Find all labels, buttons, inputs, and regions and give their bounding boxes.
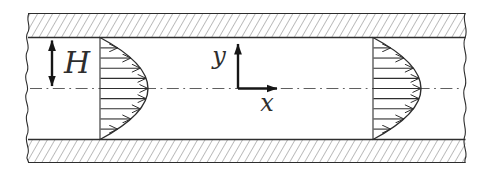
top-wall [28,14,466,38]
bottom-wall-hatching [28,140,466,163]
velocity-profile-right [373,38,421,140]
velocity-profile-left [100,38,148,140]
x-axis-label: x [260,89,274,117]
channel-flow-diagram: H y x [0,0,492,171]
h-label: H [63,45,91,80]
h-dimension: H [52,41,91,87]
top-wall-hatching [28,14,466,38]
y-axis-label: y [211,42,226,70]
bottom-wall [28,140,466,163]
coordinate-axes: y x [211,42,277,117]
diagram-canvas: H y x [0,0,492,171]
